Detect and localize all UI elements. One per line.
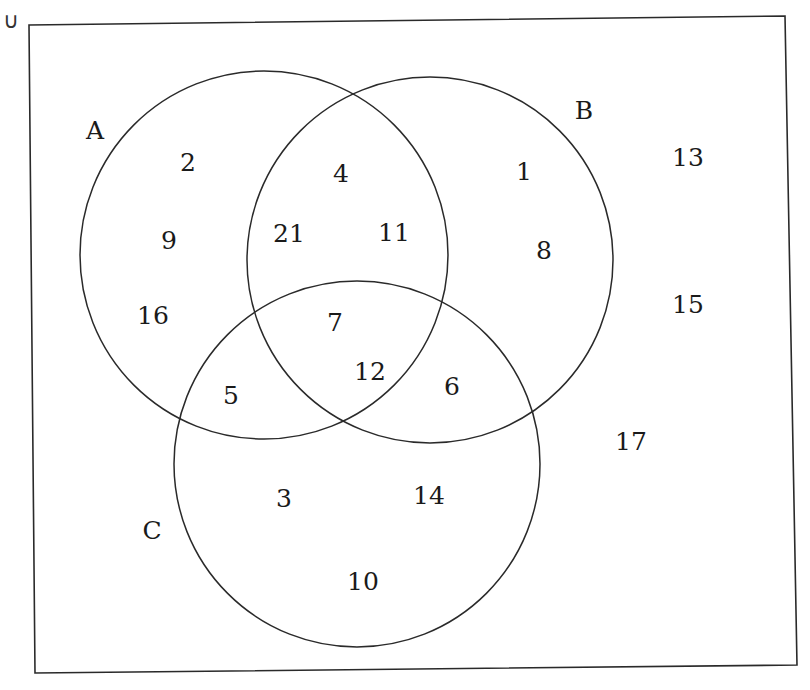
element-c-only: 10 (347, 567, 379, 596)
element-a-only: 2 (180, 148, 196, 177)
set-a-circle (80, 71, 448, 439)
element-outside: 17 (615, 427, 647, 456)
set-c-label: C (142, 516, 161, 545)
set-a-label: A (85, 116, 105, 145)
element-a-and-c: 5 (223, 381, 239, 410)
element-b-only: 8 (536, 236, 552, 265)
element-a-b-c: 7 (327, 308, 343, 337)
element-a-b-c: 12 (354, 357, 386, 386)
universal-set-symbol: ∪ (3, 8, 19, 33)
element-a-and-b: 11 (378, 218, 410, 247)
element-b-only: 1 (516, 157, 532, 186)
element-a-and-b: 21 (273, 219, 305, 248)
set-b-circle (247, 77, 613, 443)
element-outside: 13 (672, 143, 704, 172)
element-c-only: 3 (276, 484, 292, 513)
set-b-label: B (575, 96, 593, 125)
venn-diagram: ∪ A B C 2 9 16 1 8 3 14 10 4 21 11 5 6 7… (0, 0, 810, 690)
element-a-only: 16 (137, 301, 169, 330)
element-a-and-b: 4 (333, 159, 349, 188)
element-outside: 15 (672, 290, 704, 319)
element-c-only: 14 (413, 481, 445, 510)
element-a-only: 9 (161, 226, 177, 255)
element-b-and-c: 6 (444, 372, 460, 401)
